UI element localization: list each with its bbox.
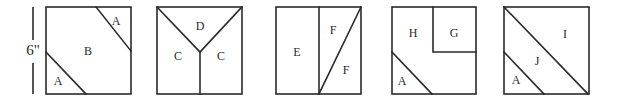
piece-label: A [398, 74, 407, 88]
piece-label: A [54, 74, 63, 88]
block-3-seam-diagonal [319, 7, 361, 94]
block-5: I J A [504, 7, 589, 94]
piece-label: I [563, 27, 567, 41]
block-2-seam-left [157, 7, 200, 52]
piece-label: C [174, 49, 182, 63]
piece-label: B [84, 44, 92, 58]
block-2: D C C [157, 7, 242, 94]
piece-label: A [112, 14, 121, 28]
block-4: H G A [392, 7, 476, 94]
block-1: A B A [46, 7, 131, 94]
block-3: E F F [276, 7, 361, 94]
dimension-indicator: 6" [26, 7, 40, 94]
block-1-seam-bottom [46, 52, 86, 94]
piece-label: H [409, 26, 418, 40]
piece-label: F [330, 23, 337, 37]
piece-label: G [450, 26, 459, 40]
piece-label: D [196, 19, 205, 33]
piece-label: C [217, 49, 225, 63]
piece-label: J [535, 54, 540, 68]
block-2-seam-right [200, 7, 242, 52]
piece-label: F [343, 63, 350, 77]
quilt-block-diagram: 6" A B A D C C E F F H G A [0, 0, 619, 107]
piece-label: A [512, 73, 521, 87]
piece-label: E [293, 45, 300, 59]
dimension-label: 6" [26, 42, 40, 58]
